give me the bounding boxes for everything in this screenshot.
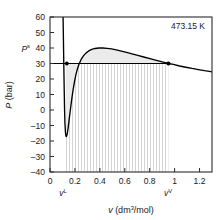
vapor-volume-label: vV <box>164 188 172 198</box>
y-tick-label: –20 <box>31 136 45 146</box>
x-tick-label: 0.6 <box>119 176 131 186</box>
y-tick-label: 30 <box>36 59 46 69</box>
x-axis-title: v (dm3/mol) <box>108 205 154 215</box>
x-tick-label: 1 <box>172 176 177 186</box>
y-tick-label: 50 <box>36 28 46 38</box>
y-tick-label: 20 <box>36 74 46 84</box>
x-tick-label: 0.2 <box>69 176 81 186</box>
liquid-point-marker <box>65 62 69 66</box>
y-tick-label: –10 <box>31 121 45 131</box>
y-tick-label: 60 <box>36 12 46 22</box>
temperature-annotation: 473.15 K <box>171 21 205 31</box>
x-tick-label: 0 <box>48 176 53 186</box>
x-tick-label: 0.8 <box>144 176 156 186</box>
pressure-volume-isotherm-chart: –40–30–20–100102030405060 00.20.40.60.81… <box>0 0 222 220</box>
y-tick-label: –40 <box>31 167 45 177</box>
x-tick-label: 0.4 <box>94 176 106 186</box>
y-tick-label: 40 <box>36 43 46 53</box>
x-tick-label: 1.2 <box>194 176 206 186</box>
y-tick-label: 10 <box>36 90 46 100</box>
vapor-point-marker <box>166 61 170 65</box>
chart-figure: –40–30–20–100102030405060 00.20.40.60.81… <box>0 0 222 220</box>
y-tick-label: 0 <box>40 105 45 115</box>
liquid-volume-label: vL <box>59 188 67 198</box>
y-tick-label: –30 <box>31 152 45 162</box>
two-phase-hatch-region <box>66 64 168 173</box>
saturation-pressure-label: Ps <box>21 43 30 53</box>
y-axis-title: P (bar) <box>4 81 14 109</box>
